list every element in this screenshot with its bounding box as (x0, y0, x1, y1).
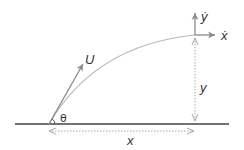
y-velocity-label: ẏ (200, 9, 209, 24)
distance-label-x: x (126, 133, 134, 148)
trajectory-curve (49, 35, 195, 124)
height-label-y: y (199, 80, 208, 95)
angle-label-theta: θ (60, 112, 67, 125)
velocity-label-u: U (85, 52, 95, 67)
projectile-diagram: U θ ẏ ẋ y x (0, 0, 244, 150)
x-velocity-label: ẋ (220, 28, 228, 43)
